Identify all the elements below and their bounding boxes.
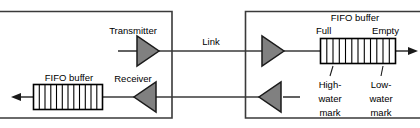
receiver-amplifier-icon [134, 82, 156, 112]
transmitter-label: Transmitter [109, 25, 157, 36]
diagram-root: Transmitter Receiver FIFO buffer Link FI… [0, 0, 420, 128]
high-water-mark-line-2: water [317, 93, 341, 104]
high-water-mark-line-3: mark [319, 107, 340, 118]
diagram-canvas: Transmitter Receiver FIFO buffer Link FI… [0, 0, 420, 128]
transmit-output-arrowhead [408, 47, 418, 55]
low-water-mark-label: Low- water mark [368, 79, 392, 118]
receive-output-arrowhead [11, 93, 21, 101]
left-fifo-buffer [34, 85, 103, 110]
right-transmit-amplifier-icon [259, 82, 281, 112]
low-water-mark-line-3: mark [370, 107, 391, 118]
right-fifo-buffer-label: FIFO buffer [331, 12, 379, 23]
receiver-label: Receiver [114, 73, 152, 84]
high-water-mark-leader [330, 66, 333, 76]
right-fifo-buffer [321, 39, 396, 64]
low-water-mark-line-2: water [368, 93, 392, 104]
high-water-mark-label: High- water mark [317, 79, 341, 118]
transmitter-amplifier-icon [137, 36, 159, 66]
link-label: Link [202, 36, 220, 47]
low-water-mark-leader [381, 66, 383, 76]
left-fifo-buffer-label: FIFO buffer [45, 72, 93, 83]
high-water-mark-line-1: High- [319, 79, 342, 90]
low-water-mark-line-1: Low- [371, 79, 392, 90]
right-receive-amplifier-icon [262, 36, 284, 66]
full-label: Full [316, 25, 331, 36]
empty-label: Empty [372, 25, 399, 36]
